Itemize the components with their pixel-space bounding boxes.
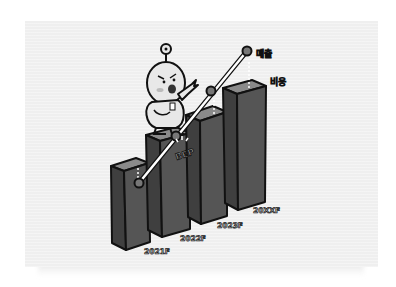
bar-2022f [146, 127, 190, 237]
year-label-2021f: 2021F [144, 247, 170, 256]
year-label-20xxf: 20XXF [253, 206, 280, 215]
line-point-2021f [135, 179, 144, 188]
bar-20xxf [223, 62, 266, 210]
line-point-20xxf [243, 47, 252, 56]
bar-2021f [111, 158, 150, 250]
year-label-2023f: 2023F [217, 221, 243, 230]
year-label-2022f: 2022F [180, 234, 206, 243]
cost-label: 비용 [270, 76, 286, 87]
line-point-2023f [207, 87, 216, 96]
sales-label: 매출 [256, 48, 272, 59]
bep-chart-illustration: BEP 매출 비용 2021F 2022F 2023F 20XXF [0, 0, 396, 287]
